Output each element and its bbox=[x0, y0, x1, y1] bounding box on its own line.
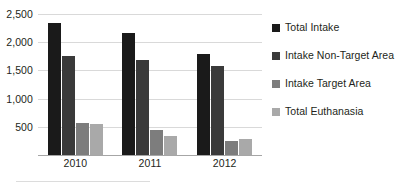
bar-group bbox=[113, 0, 188, 155]
x-axis-tick-label: 2012 bbox=[213, 158, 237, 169]
legend-item[interactable]: Intake Non-Target Area bbox=[272, 42, 397, 70]
x-axis-tick-label: 2011 bbox=[139, 158, 162, 169]
footer-divider bbox=[16, 181, 150, 182]
bar-chart-figure: 5001,0001,5002,0002,500 201020112012 Tot… bbox=[0, 0, 397, 189]
y-axis-tick-label: 2,500 bbox=[6, 9, 33, 20]
x-axis: 201020112012 bbox=[38, 157, 262, 173]
y-axis-tick-label: 1,000 bbox=[6, 93, 33, 104]
x-axis-tick-label: 2010 bbox=[63, 158, 87, 169]
legend-swatch-icon bbox=[272, 80, 280, 88]
legend-item-label: Total Intake bbox=[285, 22, 339, 34]
bar bbox=[164, 136, 177, 155]
x-axis-line bbox=[38, 155, 262, 156]
y-axis-tick-label: 2,000 bbox=[6, 37, 33, 48]
bar bbox=[239, 139, 252, 155]
bar bbox=[150, 130, 163, 155]
bar bbox=[225, 141, 238, 155]
legend-item-label: Total Euthanasia bbox=[285, 106, 363, 118]
legend-swatch-icon bbox=[272, 52, 280, 60]
bar bbox=[211, 66, 224, 155]
bar bbox=[136, 60, 149, 155]
chart-legend: Total IntakeIntake Non-Target AreaIntake… bbox=[272, 14, 397, 126]
y-axis: 5001,0001,5002,0002,500 bbox=[0, 0, 36, 156]
bar-group bbox=[38, 0, 113, 155]
bar bbox=[76, 123, 89, 155]
bar bbox=[197, 54, 210, 155]
bars-layer bbox=[38, 0, 262, 155]
legend-item-label: Intake Target Area bbox=[285, 78, 371, 90]
legend-item-label: Intake Non-Target Area bbox=[285, 50, 394, 62]
bar bbox=[90, 124, 103, 155]
bar bbox=[48, 23, 61, 155]
legend-item[interactable]: Total Euthanasia bbox=[272, 98, 397, 126]
plot-area: 5001,0001,5002,0002,500 201020112012 bbox=[0, 0, 268, 170]
legend-swatch-icon bbox=[272, 108, 280, 116]
bar bbox=[122, 33, 135, 155]
bar bbox=[62, 56, 75, 155]
legend-swatch-icon bbox=[272, 24, 280, 32]
legend-item[interactable]: Intake Target Area bbox=[272, 70, 397, 98]
bar-group bbox=[187, 0, 262, 155]
y-axis-tick-label: 500 bbox=[15, 122, 33, 133]
legend-item[interactable]: Total Intake bbox=[272, 14, 397, 42]
y-axis-tick-label: 1,500 bbox=[6, 65, 33, 76]
